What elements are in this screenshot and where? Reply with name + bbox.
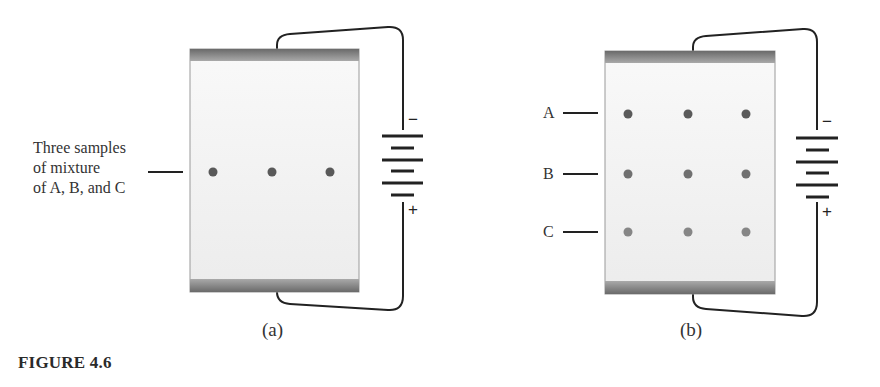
panel-a <box>148 27 423 310</box>
plus-sign-b: + <box>822 203 832 220</box>
annotation-line: of A, B, and C <box>33 178 126 198</box>
electrode-top-b <box>605 51 775 63</box>
sample-dot <box>268 168 277 177</box>
annotation-line: Three samples <box>33 138 126 158</box>
dot-a <box>624 110 633 119</box>
plus-sign-a: + <box>408 201 418 218</box>
figure-caption: FIGURE 4.6 <box>18 353 112 373</box>
sample-dot <box>326 168 335 177</box>
battery-icon-b <box>796 138 838 197</box>
dot-c <box>624 228 633 237</box>
sample-dot <box>209 168 218 177</box>
electrophoresis-figure <box>0 0 880 387</box>
electrode-bottom-a <box>190 279 359 292</box>
dot-b <box>742 170 751 179</box>
dot-b <box>624 170 633 179</box>
electrode-bottom-b <box>605 281 775 294</box>
battery-icon-a <box>382 136 423 195</box>
row-label-b: B <box>543 164 554 184</box>
panel-label-a: (a) <box>262 320 283 340</box>
row-label-a: A <box>543 103 555 123</box>
panel-b <box>563 29 838 316</box>
dot-c <box>684 228 693 237</box>
dot-c <box>742 228 751 237</box>
dot-a <box>684 110 693 119</box>
row-label-c: C <box>543 222 554 242</box>
dot-a <box>742 110 751 119</box>
minus-sign-a: − <box>408 111 418 128</box>
electrode-top-a <box>190 49 359 61</box>
samples-annotation: Three samples of mixture of A, B, and C <box>33 138 126 198</box>
dot-b <box>684 170 693 179</box>
panel-label-b: (b) <box>680 320 702 340</box>
annotation-line: of mixture <box>33 158 126 178</box>
minus-sign-b: − <box>822 113 832 130</box>
